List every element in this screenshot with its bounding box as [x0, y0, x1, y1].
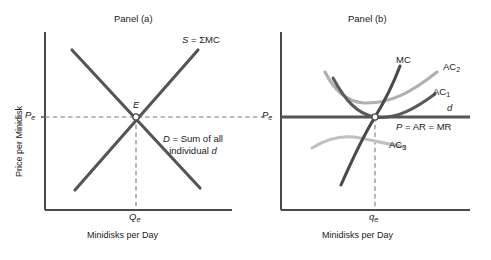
- panel-b-ac2-curve: [325, 72, 437, 103]
- panel-b-x-axis-title: Minidisks per Day: [322, 230, 393, 240]
- panel-a-title: Panel (a): [114, 14, 153, 25]
- panel-b-equilibrium-marker: [372, 114, 378, 120]
- panel-b-mc-curve: [341, 66, 400, 185]
- panel-a-price-tick-label: Pe: [25, 110, 35, 122]
- panel-b-ac3-label: AC3: [389, 140, 406, 152]
- panel-b-price-tick-label: Pe: [262, 110, 272, 122]
- panel-a-demand-label-symbol: D: [163, 133, 170, 144]
- panel-b-ac1-label-subscript: 1: [446, 90, 450, 99]
- panel-a-price-tick-subscript: e: [31, 113, 35, 122]
- panel-a-demand-label-rest: = Sum of all: [170, 133, 223, 144]
- panel-a-y-axis-title: Price per Minidisk: [14, 106, 24, 177]
- panel-b-ac1-label-text: AC: [433, 86, 446, 97]
- panel-b-ac3-label-subscript: 3: [402, 143, 406, 152]
- panel-a-supply-label: S = ΣMC: [182, 35, 220, 46]
- panel-b-revenue-label-rest: = AR = MR: [402, 121, 451, 132]
- figure-root: Panel (a) Price per Minidisk Minidisks p…: [0, 0, 491, 260]
- panel-a-group: [41, 32, 268, 210]
- panel-b-ac2-label-text: AC: [443, 61, 456, 72]
- panel-b-demand-curve-label: d: [447, 103, 452, 114]
- panel-b-mc-label: MC: [396, 55, 411, 66]
- panel-a-quantity-tick-subscript: e: [136, 215, 140, 224]
- panel-a-demand-label-line2-symbol: d: [211, 145, 216, 156]
- panel-b-ac2-label-subscript: 2: [456, 65, 460, 74]
- panel-a-quantity-tick-label: Qe: [129, 212, 140, 224]
- panel-b-ac1-label: AC1: [433, 87, 450, 99]
- panel-b-revenue-label: P = AR = MR: [396, 122, 451, 133]
- panel-a-equilibrium-label: E: [133, 100, 139, 111]
- panel-b-title: Panel (b): [348, 14, 387, 25]
- panel-b-ac2-label: AC2: [443, 62, 460, 74]
- panel-b-price-tick-subscript: e: [268, 113, 272, 122]
- panel-b-quantity-tick-label: qe: [369, 212, 378, 224]
- panel-a-supply-label-rest: = ΣMC: [188, 34, 219, 45]
- panel-b-quantity-tick-subscript: e: [374, 215, 378, 224]
- panel-a-demand-label: D = Sum of all individual d: [163, 133, 223, 157]
- panel-a-x-axis-title: Minidisks per Day: [87, 230, 158, 240]
- panel-a-equilibrium-marker: [133, 114, 139, 120]
- panel-b-ac3-label-text: AC: [389, 139, 402, 150]
- panel-a-demand-label-line2: individual: [169, 145, 211, 156]
